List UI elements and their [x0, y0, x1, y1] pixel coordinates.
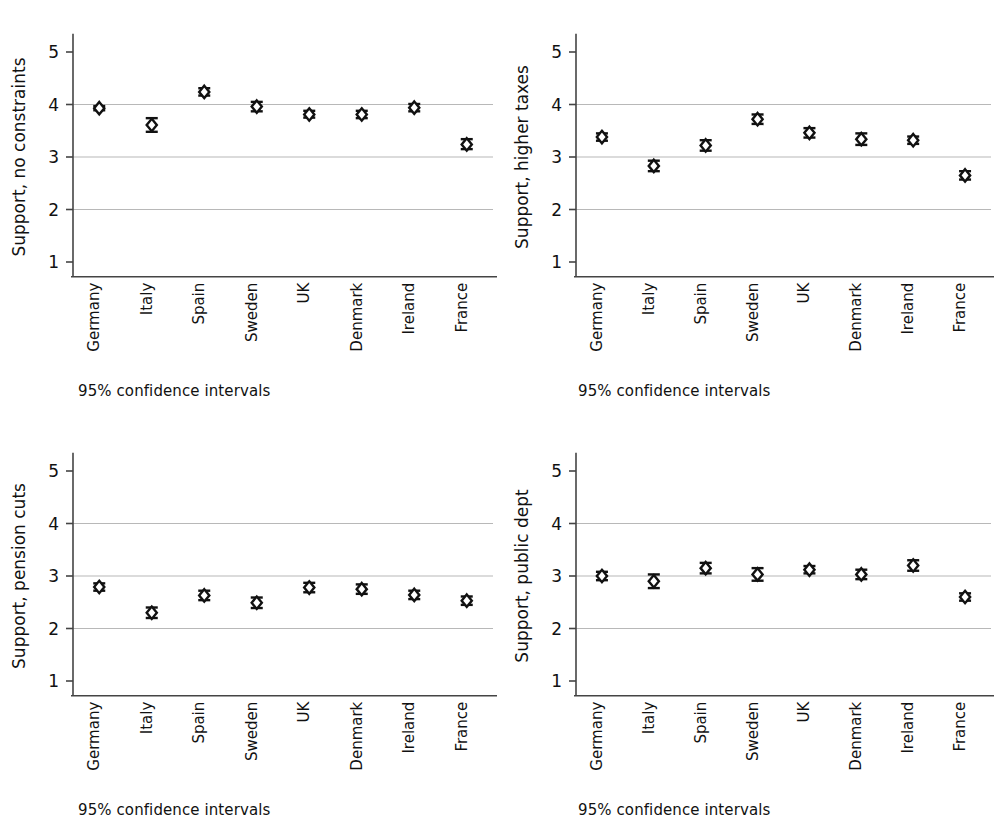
data-point-sweden [752, 113, 764, 125]
y-tick-label-4: 4 [551, 95, 562, 115]
x-category-label-germany: Germany [588, 702, 606, 771]
y-tick-label-1: 1 [551, 252, 562, 272]
x-category-label-ireland: Ireland [400, 283, 418, 335]
y-tick-label-2: 2 [48, 619, 59, 639]
panel-caption: 95% confidence intervals [578, 801, 770, 819]
x-category-label-spain: Spain [190, 702, 208, 744]
y-axis-title: Support, no constraints [9, 57, 29, 256]
x-category-label-italy: Italy [138, 283, 156, 316]
x-category-label-denmark: Denmark [847, 701, 865, 770]
x-category-label-ireland: Ireland [899, 702, 917, 754]
data-point-germany [93, 581, 105, 593]
data-point-spain [198, 86, 210, 98]
x-category-label-germany: Germany [588, 283, 606, 352]
y-tick-label-2: 2 [48, 200, 59, 220]
data-point-sweden [251, 100, 263, 112]
x-category-label-ireland: Ireland [400, 702, 418, 754]
chart-top-right: 12345Support, higher taxesGermanyItalySp… [500, 0, 994, 420]
x-category-label-spain: Spain [692, 702, 710, 744]
y-tick-label-5: 5 [551, 461, 562, 481]
y-tick-label-2: 2 [551, 619, 562, 639]
x-category-label-denmark: Denmark [847, 282, 865, 351]
x-category-label-france: France [951, 283, 969, 333]
panel-bottom-right: 12345Support, public deptGermanyItalySpa… [500, 420, 994, 839]
panel-top-left: 12345Support, no constraintsGermanyItaly… [0, 0, 500, 420]
data-point-sweden [251, 597, 263, 609]
x-category-label-italy: Italy [138, 702, 156, 735]
panel-bottom-left: 12345Support, pension cutsGermanyItalySp… [0, 420, 500, 839]
data-point-ireland [907, 134, 919, 146]
x-category-label-uk: UK [295, 701, 313, 723]
data-point-germany [596, 570, 608, 582]
x-category-label-germany: Germany [85, 702, 103, 771]
panel-caption: 95% confidence intervals [78, 382, 270, 400]
data-point-denmark [356, 108, 368, 120]
x-category-label-spain: Spain [190, 283, 208, 325]
x-category-label-sweden: Sweden [243, 283, 261, 342]
y-tick-label-5: 5 [48, 42, 59, 62]
x-category-label-uk: UK [795, 282, 813, 304]
y-tick-label-3: 3 [551, 147, 562, 167]
x-category-label-denmark: Denmark [348, 282, 366, 351]
y-tick-label-1: 1 [48, 671, 59, 691]
x-category-label-sweden: Sweden [243, 702, 261, 761]
data-point-spain [198, 589, 210, 601]
data-point-italy [146, 118, 158, 132]
data-point-spain [700, 562, 712, 574]
x-category-label-sweden: Sweden [744, 283, 762, 342]
x-category-label-denmark: Denmark [348, 701, 366, 770]
y-tick-label-2: 2 [551, 200, 562, 220]
data-point-france [461, 138, 473, 150]
chart-bottom-left: 12345Support, pension cutsGermanyItalySp… [0, 420, 500, 839]
y-tick-label-4: 4 [48, 514, 59, 534]
x-category-label-uk: UK [295, 282, 313, 304]
data-point-denmark [356, 583, 368, 595]
y-axis-title: Support, pension cuts [9, 483, 29, 669]
data-point-uk [303, 581, 315, 593]
chart-top-left: 12345Support, no constraintsGermanyItaly… [0, 0, 500, 420]
data-point-italy [648, 160, 660, 172]
y-tick-label-5: 5 [48, 461, 59, 481]
panel-top-right: 12345Support, higher taxesGermanyItalySp… [500, 0, 994, 420]
y-tick-label-1: 1 [48, 252, 59, 272]
data-point-spain [700, 139, 712, 151]
y-tick-label-4: 4 [48, 95, 59, 115]
data-point-france [959, 169, 971, 181]
chart-bottom-right: 12345Support, public deptGermanyItalySpa… [500, 420, 994, 839]
data-point-uk [803, 127, 815, 139]
data-point-uk [803, 564, 815, 576]
y-tick-label-3: 3 [48, 147, 59, 167]
y-tick-label-3: 3 [48, 566, 59, 586]
figure-panel-grid: 12345Support, no constraintsGermanyItaly… [0, 0, 994, 839]
x-category-label-france: France [951, 702, 969, 752]
x-category-label-france: France [453, 283, 471, 333]
panel-caption: 95% confidence intervals [578, 382, 770, 400]
panel-caption: 95% confidence intervals [78, 801, 270, 819]
data-point-uk [303, 108, 315, 120]
x-category-label-sweden: Sweden [744, 702, 762, 761]
y-tick-label-1: 1 [551, 671, 562, 691]
y-tick-label-5: 5 [551, 42, 562, 62]
data-point-italy [146, 607, 158, 619]
x-category-label-germany: Germany [85, 283, 103, 352]
data-point-germany [93, 102, 105, 114]
data-point-denmark [855, 568, 867, 580]
y-tick-label-3: 3 [551, 566, 562, 586]
x-category-label-italy: Italy [640, 702, 658, 735]
x-category-label-ireland: Ireland [899, 283, 917, 335]
data-point-sweden [752, 568, 764, 581]
data-point-ireland [408, 589, 420, 601]
data-point-ireland [408, 101, 420, 113]
x-category-label-uk: UK [795, 701, 813, 723]
y-axis-title: Support, public dept [512, 489, 532, 663]
data-point-ireland [907, 559, 919, 571]
x-category-label-italy: Italy [640, 283, 658, 316]
x-category-label-spain: Spain [692, 283, 710, 325]
data-point-germany [596, 131, 608, 143]
data-point-denmark [855, 133, 867, 145]
data-point-france [461, 594, 473, 606]
y-tick-label-4: 4 [551, 514, 562, 534]
y-axis-title: Support, higher taxes [512, 65, 532, 249]
x-category-label-france: France [453, 702, 471, 752]
data-point-france [959, 591, 971, 603]
